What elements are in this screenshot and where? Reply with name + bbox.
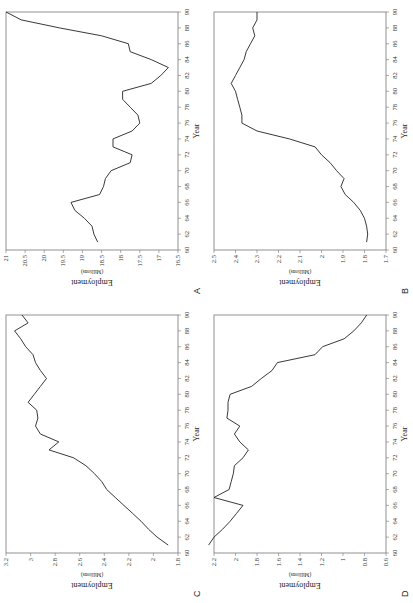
x-tick-label: 90 — [391, 9, 398, 16]
panel-letter: B — [400, 288, 410, 294]
x-tick-label: 64 — [391, 214, 398, 221]
y-axis-unit: (Millions) — [81, 571, 103, 578]
plot-frame — [6, 315, 178, 553]
x-tick-label: 78 — [391, 104, 398, 111]
x-tick-label: 88 — [391, 25, 398, 32]
x-tick-label: 76 — [183, 422, 190, 429]
x-tick-label: 68 — [391, 486, 398, 493]
x-tick-label: 62 — [183, 534, 190, 541]
y-axis-label: Employment — [71, 278, 113, 287]
x-tick-label: 74 — [183, 438, 190, 445]
x-tick-label: 82 — [391, 72, 398, 79]
x-tick-label: 80 — [391, 391, 398, 398]
plot-frame — [214, 315, 386, 553]
y-tick-label: 1.9 — [339, 255, 346, 263]
x-tick-label: 68 — [183, 183, 190, 190]
y-axis-unit: (Millions) — [289, 268, 311, 275]
y-tick-label: 1.8 — [361, 255, 368, 263]
x-tick-label: 70 — [391, 470, 398, 477]
x-tick-label: 80 — [183, 88, 190, 95]
x-tick-label: 60 — [183, 247, 190, 254]
y-tick-label: 17 — [155, 254, 162, 261]
x-tick-label: 88 — [183, 25, 190, 32]
y-tick-label: 3 — [27, 558, 34, 561]
x-tick-label: 68 — [183, 486, 190, 493]
y-tick-label: 18 — [117, 255, 124, 262]
y-tick-label: 0.8 — [361, 558, 368, 566]
x-tick-label: 64 — [183, 214, 190, 221]
y-tick-label: 19.5 — [59, 255, 66, 266]
x-tick-label: 86 — [391, 40, 398, 47]
x-tick-label: 84 — [391, 56, 398, 63]
x-tick-label: 72 — [183, 455, 190, 462]
x-tick-label: 76 — [391, 119, 398, 126]
data-line — [6, 12, 168, 242]
x-tick-label: 60 — [183, 550, 190, 557]
x-tick-label: 72 — [391, 152, 398, 159]
y-tick-label: 2 — [318, 255, 325, 258]
y-tick-label: 2.4 — [100, 557, 107, 566]
x-tick-label: 80 — [391, 88, 398, 95]
x-tick-label: 62 — [183, 231, 190, 238]
y-tick-label: 19 — [78, 255, 85, 262]
panel-letter: A — [192, 288, 202, 294]
y-tick-label: 1.8 — [174, 558, 181, 566]
x-tick-label: 84 — [183, 359, 190, 366]
x-tick-label: 66 — [391, 198, 398, 205]
data-line — [209, 315, 367, 545]
y-tick-label: 2 — [149, 558, 156, 561]
y-tick-label: 17.5 — [136, 255, 143, 266]
y-tick-label: 3.2 — [2, 558, 9, 566]
y-axis-label: Employment — [279, 581, 321, 590]
x-tick-label: 64 — [183, 517, 190, 524]
y-axis-label: Employment — [279, 278, 321, 287]
panel-b: 1.71.81.922.12.22.32.42.5606264666870727… — [208, 0, 413, 300]
x-tick-label: 70 — [183, 470, 190, 477]
y-tick-label: 1.8 — [253, 558, 260, 566]
panel-letter: C — [192, 590, 202, 597]
x-tick-label: 72 — [183, 152, 190, 159]
x-axis-label: Year — [400, 426, 409, 441]
y-axis-label: Employment — [71, 581, 113, 590]
x-tick-label: 76 — [183, 119, 190, 126]
x-tick-label: 60 — [391, 247, 398, 254]
data-line — [15, 315, 169, 545]
panel-a: 16.51717.51818.51919.52020.5216062646668… — [0, 0, 205, 300]
y-tick-label: 20.5 — [21, 255, 28, 266]
y-tick-label: 1.4 — [296, 557, 303, 566]
x-tick-label: 78 — [391, 407, 398, 414]
y-tick-label: 1.7 — [382, 254, 389, 263]
x-tick-label: 62 — [391, 534, 398, 541]
x-tick-label: 70 — [183, 167, 190, 174]
x-axis-label: Year — [400, 123, 409, 138]
x-tick-label: 70 — [391, 167, 398, 174]
x-tick-label: 86 — [183, 343, 190, 350]
x-tick-label: 74 — [183, 135, 190, 142]
y-tick-label: 2.1 — [296, 255, 303, 263]
x-tick-label: 82 — [391, 375, 398, 382]
panel-c: 1.822.22.42.62.833.260626466687072747678… — [0, 303, 205, 603]
x-tick-label: 76 — [391, 422, 398, 429]
x-tick-label: 88 — [183, 328, 190, 335]
x-tick-label: 84 — [183, 56, 190, 63]
x-tick-label: 86 — [391, 343, 398, 350]
x-tick-label: 90 — [183, 312, 190, 319]
y-tick-label: 20 — [40, 255, 47, 262]
x-tick-label: 66 — [391, 501, 398, 508]
x-tick-label: 88 — [391, 328, 398, 335]
x-tick-label: 80 — [183, 391, 190, 398]
y-tick-label: 2.6 — [76, 557, 83, 566]
y-axis-unit: (Millions) — [289, 571, 311, 578]
panel-letter: D — [400, 590, 410, 597]
x-tick-label: 90 — [183, 9, 190, 16]
x-tick-label: 74 — [391, 438, 398, 445]
y-tick-label: 2.2 — [210, 558, 217, 566]
y-tick-label: 1 — [339, 558, 346, 561]
x-tick-label: 72 — [391, 455, 398, 462]
x-tick-label: 68 — [391, 183, 398, 190]
y-tick-label: 2.2 — [275, 255, 282, 263]
y-tick-label: 2 — [232, 558, 239, 561]
x-tick-label: 74 — [391, 135, 398, 142]
plot-frame — [214, 12, 386, 250]
x-tick-label: 62 — [391, 231, 398, 238]
